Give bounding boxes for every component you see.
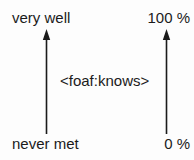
left-axis-top-label: very well (12, 9, 70, 26)
left-axis-bottom-label: never met (12, 135, 79, 152)
right-axis-top-label: 100 % (147, 9, 190, 26)
diagram-canvas: very well 100 % <foaf:knows> never met 0… (0, 0, 194, 160)
right-axis-bottom-label: 0 % (164, 135, 190, 152)
right-up-arrow-icon (162, 29, 171, 134)
left-up-arrow-icon (42, 29, 51, 134)
relation-label: <foaf:knows> (60, 72, 149, 89)
